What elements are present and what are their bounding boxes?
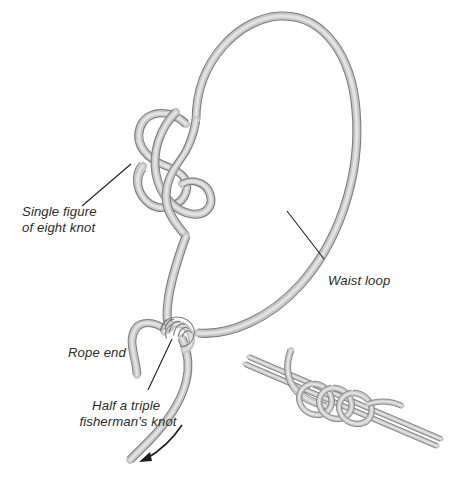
label-fishermans-knot-line2: fisherman's knot bbox=[79, 414, 177, 429]
label-fishermans-knot-line1: Half a triple bbox=[92, 398, 160, 413]
label-figure-eight-line2: of eight knot bbox=[22, 220, 96, 235]
figure-eight-leader bbox=[82, 164, 131, 206]
left-rope-strand bbox=[163, 235, 190, 330]
waist-loop-leader bbox=[287, 211, 324, 259]
waist-loop-rope bbox=[192, 12, 361, 337]
label-waist-loop: Waist loop bbox=[328, 273, 390, 288]
fishermans-knot-leader bbox=[148, 339, 172, 390]
triple-fishermans-knot-inset bbox=[244, 349, 442, 448]
knot-diagram-page: Single figure of eight knot Waist loop R… bbox=[0, 0, 462, 493]
figure-of-eight-knot bbox=[133, 109, 214, 238]
label-waist-loop-line1: Waist loop bbox=[328, 273, 390, 288]
label-figure-of-eight-knot: Single figure of eight knot bbox=[22, 204, 100, 235]
label-fishermans-knot: Half a triple fisherman's knot bbox=[79, 398, 177, 429]
label-figure-eight-line1: Single figure bbox=[22, 204, 97, 219]
knot-diagram-svg: Single figure of eight knot Waist loop R… bbox=[0, 0, 462, 493]
label-rope-end-line1: Rope end bbox=[68, 345, 127, 360]
label-rope-end: Rope end bbox=[68, 345, 127, 360]
